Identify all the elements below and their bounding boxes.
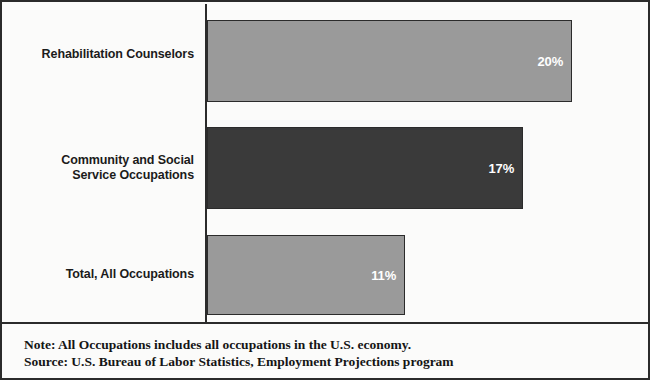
bar-value-total-all-occupations: 11%	[371, 268, 396, 283]
category-label-line-1: Community and Social	[10, 153, 194, 168]
plot-area: Rehabilitation Counselors 20% Community …	[2, 2, 648, 322]
bar-row-community-and-social-service-occupations: Community and Social Service Occupations…	[2, 112, 648, 224]
category-label-line-2: Service Occupations	[10, 168, 194, 183]
bar-community-and-social-service-occupations: 17%	[207, 127, 523, 209]
category-label-community-and-social-service-occupations: Community and Social Service Occupations	[10, 153, 194, 183]
footnote-note: Note: All Occupations includes all occup…	[24, 336, 648, 353]
bar-rehabilitation-counselors: 20%	[207, 20, 572, 102]
category-label-line-1: Total, All Occupations	[66, 267, 194, 281]
bar-value-community-and-social-service-occupations: 17%	[489, 161, 514, 176]
bar-total-all-occupations: 11%	[207, 235, 405, 315]
bar-row-total-all-occupations: Total, All Occupations 11%	[2, 220, 648, 322]
bar-row-rehabilitation-counselors: Rehabilitation Counselors 20%	[2, 2, 648, 120]
footnote-source: Source: U.S. Bureau of Labor Statistics,…	[24, 353, 648, 370]
footnotes: Note: All Occupations includes all occup…	[2, 324, 648, 370]
bar-value-rehabilitation-counselors: 20%	[538, 54, 563, 69]
category-label-line-1: Rehabilitation Counselors	[42, 47, 194, 61]
category-label-rehabilitation-counselors: Rehabilitation Counselors	[10, 47, 194, 62]
category-label-total-all-occupations: Total, All Occupations	[10, 267, 194, 282]
bar-chart-figure: Rehabilitation Counselors 20% Community …	[0, 0, 650, 380]
